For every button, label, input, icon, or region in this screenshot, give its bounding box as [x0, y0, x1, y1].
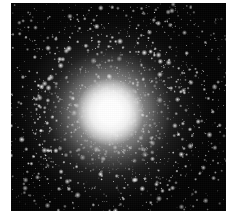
starfield-medium-stars — [11, 3, 226, 211]
cluster-mid-halo-glow — [11, 3, 226, 211]
starfield-faint-stars — [11, 3, 226, 211]
photographic-grain-overlay — [11, 3, 226, 211]
cluster-outer-halo-glow — [11, 3, 226, 211]
cluster-saturated-core-glow — [11, 3, 226, 211]
starfield-bright-stars — [11, 3, 226, 211]
image-page — [0, 0, 226, 221]
plate-vignette — [11, 3, 226, 211]
image-caption — [11, 212, 226, 221]
astronomical-image-plate — [11, 3, 226, 211]
